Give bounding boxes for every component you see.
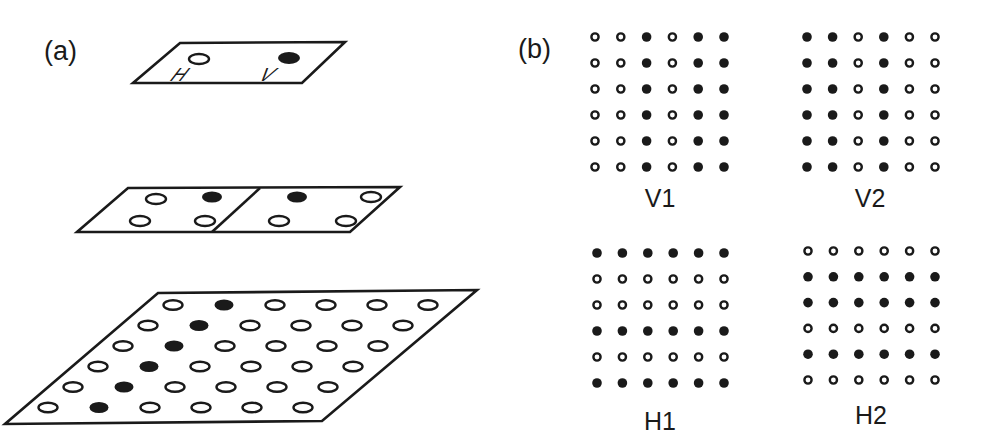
filled-dot — [643, 326, 653, 336]
filled-dot — [642, 84, 652, 94]
open-dot — [931, 247, 938, 254]
filled-dot — [879, 272, 889, 282]
open-dot — [906, 376, 913, 383]
open-dot — [695, 353, 702, 360]
open-dot — [855, 137, 862, 144]
open-dot — [266, 300, 285, 310]
filled-dot — [165, 341, 184, 352]
open-dot — [343, 321, 362, 331]
open-dot — [669, 137, 676, 144]
panel-a: (a) H V — [5, 36, 477, 424]
open-dot — [164, 300, 183, 310]
open-dot — [368, 300, 387, 310]
open-dot — [195, 216, 215, 226]
open-dot — [720, 301, 727, 308]
grid-v2-label: V2 — [855, 184, 886, 212]
filled-dot — [719, 84, 729, 94]
open-dot — [130, 216, 150, 226]
open-dot — [906, 59, 913, 66]
open-dot — [269, 216, 289, 226]
open-dot — [89, 362, 108, 372]
grid-h1-label: H1 — [644, 407, 676, 435]
open-dot — [141, 403, 160, 413]
filled-dot — [719, 378, 729, 388]
open-dot — [267, 341, 286, 351]
filled-dot — [719, 162, 729, 172]
open-dot — [931, 376, 938, 383]
open-dot — [619, 301, 626, 308]
open-dot — [906, 325, 913, 332]
open-dot — [619, 275, 626, 282]
filled-dot — [828, 84, 838, 94]
filled-dot — [719, 326, 729, 336]
open-dot — [369, 341, 388, 351]
filled-dot — [803, 349, 813, 359]
filled-dot — [854, 272, 864, 282]
open-dot — [593, 353, 600, 360]
filled-dot — [802, 32, 812, 42]
filled-dot — [879, 298, 889, 308]
top-layer-plane — [133, 42, 345, 83]
filled-dot — [803, 272, 813, 282]
open-dot — [318, 341, 337, 351]
filled-dot — [905, 298, 915, 308]
filled-dot — [802, 162, 812, 172]
open-dot — [804, 247, 811, 254]
open-dot — [293, 362, 312, 372]
filled-dot — [930, 272, 940, 282]
open-dot — [619, 353, 626, 360]
open-dot — [669, 163, 676, 170]
filled-dot — [854, 349, 864, 359]
grid-h1 — [592, 248, 729, 388]
open-dot — [617, 59, 624, 66]
filled-dot — [90, 402, 109, 413]
open-dot — [319, 382, 338, 392]
open-dot — [617, 111, 624, 118]
filled-dot — [803, 298, 813, 308]
filled-dot — [668, 378, 678, 388]
open-dot — [855, 111, 862, 118]
open-dot — [931, 85, 938, 92]
filled-dot — [829, 349, 839, 359]
open-dot — [931, 137, 938, 144]
v-unit-filled-dot — [278, 52, 300, 64]
open-dot — [242, 362, 261, 372]
filled-dot — [879, 162, 889, 172]
filled-dot — [802, 110, 812, 120]
open-dot — [617, 33, 624, 40]
open-dot — [217, 382, 236, 392]
filled-dot — [618, 248, 628, 258]
open-dot — [292, 321, 311, 331]
open-dot — [830, 325, 837, 332]
open-dot — [855, 325, 862, 332]
open-dot — [593, 275, 600, 282]
open-dot — [906, 247, 913, 254]
open-dot — [591, 111, 598, 118]
filled-dot — [693, 162, 703, 172]
open-dot — [669, 33, 676, 40]
middle-layer — [77, 187, 400, 232]
filled-dot — [879, 110, 889, 120]
grid-v1-label: V1 — [645, 184, 676, 212]
open-dot — [139, 321, 158, 331]
open-dot — [855, 59, 862, 66]
open-dot — [268, 382, 287, 392]
open-dot — [669, 111, 676, 118]
filled-dot — [802, 136, 812, 146]
open-dot — [146, 194, 166, 204]
filled-dot — [719, 136, 729, 146]
open-dot — [855, 376, 862, 383]
open-dot — [64, 382, 83, 392]
open-dot — [644, 275, 651, 282]
filled-dot — [693, 110, 703, 120]
filled-dot — [828, 32, 838, 42]
open-dot — [192, 403, 211, 413]
filled-dot — [694, 378, 704, 388]
figure: (a) H V (b) V1 V2 H1 H2 — [0, 0, 991, 446]
filled-dot — [694, 248, 704, 258]
open-dot — [361, 192, 381, 202]
open-dot — [669, 59, 676, 66]
filled-dot — [190, 320, 209, 331]
open-dot — [644, 353, 651, 360]
filled-dot — [643, 378, 653, 388]
